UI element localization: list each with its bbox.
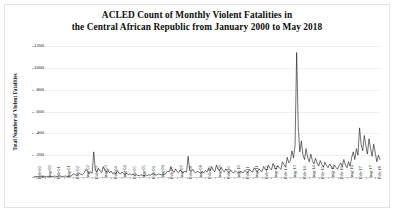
x-axis-tick-label: Feb-14 <box>302 166 307 179</box>
x-axis-tick-label: Feb-04 <box>113 166 118 179</box>
x-axis-tick-label: Feb-00 <box>37 166 42 179</box>
x-axis-tick-label: Feb-09 <box>207 166 212 179</box>
x-axis-tick-mark <box>64 177 65 179</box>
x-axis-tick-mark <box>234 177 235 179</box>
x-axis-tick-mark <box>215 177 216 179</box>
x-axis-tick-label: Aug-04 <box>122 165 127 179</box>
chart-title-line-2: the Central African Republic from Januar… <box>0 21 394 33</box>
x-axis-tick-label: Aug-05 <box>141 165 146 179</box>
x-axis-tick-label: Feb-05 <box>132 166 137 179</box>
x-axis-tick-label: Aug-12 <box>273 165 278 179</box>
x-axis-tick-mark <box>196 177 197 179</box>
x-axis-tick-label: Aug-09 <box>217 165 222 179</box>
x-axis-tick-label: Aug-13 <box>292 165 297 179</box>
x-axis-tick-mark <box>366 177 367 179</box>
x-axis-tick-label: Feb-01 <box>56 166 61 179</box>
x-axis-tick-label: Aug-07 <box>179 165 184 179</box>
chart-figure: ACLED Count of Monthly Violent Fatalitie… <box>0 0 394 212</box>
x-axis-labels: Feb-00Aug-00Feb-01Aug-01Feb-02Aug-02Feb-… <box>34 179 380 210</box>
x-axis-tick-mark <box>111 177 112 179</box>
x-axis-tick-label: Feb-06 <box>151 166 156 179</box>
chart-title-line-1: ACLED Count of Monthly Violent Fatalitie… <box>0 9 394 21</box>
x-axis-tick-label: Aug-11 <box>254 165 259 179</box>
x-axis-tick-mark <box>300 177 301 179</box>
x-axis-tick-label: Aug-00 <box>47 165 52 179</box>
x-axis-tick-label: Aug-08 <box>198 165 203 179</box>
x-axis-tick-mark <box>281 177 282 179</box>
x-axis-tick-mark <box>177 177 178 179</box>
x-axis-tick-label: Aug-01 <box>66 165 71 179</box>
x-axis-tick-label: Aug-17 <box>368 165 373 179</box>
x-axis-tick-label: Aug-16 <box>349 165 354 179</box>
x-axis-tick-label: Feb-17 <box>358 166 363 179</box>
x-axis-tick-label: Feb-11 <box>245 166 250 179</box>
x-axis-tick-label: Feb-02 <box>75 166 80 179</box>
x-axis-tick-label: Feb-10 <box>226 166 231 179</box>
x-axis-tick-mark <box>243 177 244 179</box>
x-axis-tick-label: Feb-12 <box>264 166 269 179</box>
x-axis-tick-mark <box>45 177 46 179</box>
fatalities-line-series <box>34 46 380 177</box>
x-axis-tick-label: Aug-06 <box>160 165 165 179</box>
x-axis-tick-label: Feb-15 <box>320 166 325 179</box>
chart-title: ACLED Count of Monthly Violent Fatalitie… <box>0 9 394 33</box>
x-axis-tick-label: Aug-02 <box>85 165 90 179</box>
x-axis-tick-mark <box>149 177 150 179</box>
x-axis-tick-mark <box>130 177 131 179</box>
x-axis-tick-label: Aug-03 <box>103 165 108 179</box>
x-axis-tick-mark <box>347 177 348 179</box>
x-axis-tick-label: Feb-16 <box>339 166 344 179</box>
y-axis-tick-mark <box>32 177 34 178</box>
x-axis-tick-label: Feb-18 <box>377 166 382 179</box>
x-axis-tick-label: Aug-14 <box>311 165 316 179</box>
x-axis-tick-label: Feb-03 <box>94 166 99 179</box>
x-axis-tick-label: Feb-08 <box>188 166 193 179</box>
x-axis-tick-label: Aug-15 <box>330 165 335 179</box>
x-axis-tick-mark <box>83 177 84 179</box>
x-axis-tick-mark <box>328 177 329 179</box>
x-axis-tick-label: Feb-13 <box>283 166 288 179</box>
plot-area: 020040060080010001200 <box>34 46 380 177</box>
x-axis-tick-label: Feb-07 <box>169 166 174 179</box>
x-axis-tick-mark <box>262 177 263 179</box>
x-axis-tick-label: Aug-10 <box>236 165 241 179</box>
